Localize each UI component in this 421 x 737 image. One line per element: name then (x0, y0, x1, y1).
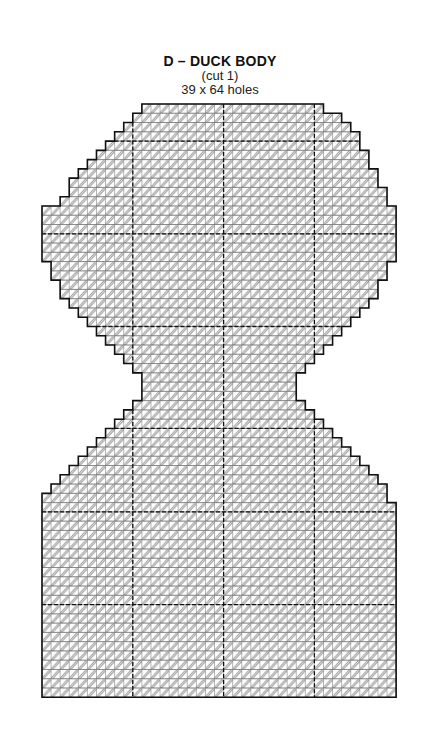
plastic-canvas-chart (0, 0, 421, 737)
grid-cells (42, 104, 396, 697)
